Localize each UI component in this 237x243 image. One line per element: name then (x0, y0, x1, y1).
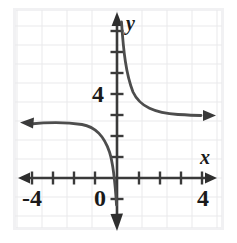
x-axis-label: x (200, 147, 210, 167)
plot-border (15, 10, 223, 229)
y-axis-label: y (126, 13, 135, 33)
graph-figure: -4 0 4 4 x y (0, 0, 237, 243)
x-tick-label-zero: 0 (94, 186, 106, 210)
x-tick-label-four: 4 (197, 186, 209, 210)
x-tick-label-neg-four: -4 (22, 186, 42, 210)
y-tick-label-four: 4 (92, 82, 104, 106)
